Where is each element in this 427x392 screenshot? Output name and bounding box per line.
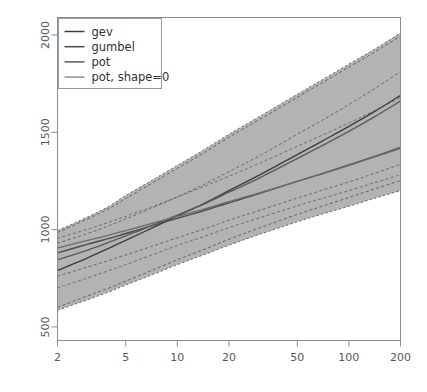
x-tick-label: 5: [122, 351, 129, 364]
legend-label-2: pot: [92, 55, 111, 69]
y-tick-label: 1500: [39, 118, 52, 146]
return-level-plot: 25102050100200500100015002000gevgumbelpo…: [0, 0, 427, 392]
x-tick-label: 50: [290, 351, 304, 364]
chart-root: 25102050100200500100015002000gevgumbelpo…: [0, 0, 427, 392]
x-tick-label: 20: [222, 351, 236, 364]
legend-label-1: gumbel: [92, 40, 135, 54]
legend-label-0: gev: [92, 25, 113, 39]
y-tick-label: 500: [39, 316, 52, 337]
y-tick-label: 1000: [39, 216, 52, 244]
x-tick-label: 200: [390, 351, 411, 364]
legend: gevgumbelpotpot, shape=0: [59, 19, 170, 89]
x-tick-label: 100: [338, 351, 359, 364]
legend-label-3: pot, shape=0: [92, 70, 170, 84]
y-tick-label: 2000: [39, 21, 52, 49]
x-tick-label: 2: [54, 351, 61, 364]
x-tick-label: 10: [170, 351, 184, 364]
